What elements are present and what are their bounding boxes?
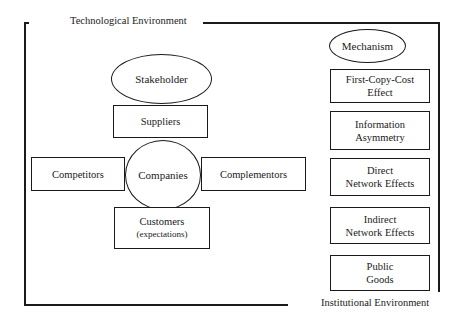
mechanism-item-label: Information Asymmetry <box>355 118 405 144</box>
customers-box: Customers (expectations) <box>114 207 210 249</box>
inst-env-right-border <box>438 22 440 292</box>
mechanism-title: Mechanism <box>342 40 393 52</box>
tech-env-top-tick <box>24 22 29 24</box>
inst-env-label: Institutional Environment <box>321 297 429 308</box>
tech-env-bottom-border <box>24 304 288 306</box>
stakeholder-title: Stakeholder <box>135 73 188 85</box>
suppliers-label: Suppliers <box>141 115 181 128</box>
inst-env-top-border <box>203 22 440 24</box>
mechanism-item-label: Direct Network Effects <box>346 164 415 190</box>
mechanism-ellipse: Mechanism <box>329 29 406 63</box>
mechanism-item-first-copy-cost: First-Copy-Cost Effect <box>330 69 430 103</box>
mechanism-item-indirect-network-effects: Indirect Network Effects <box>330 207 430 244</box>
customers-expectations-label: (expectations) <box>137 228 188 241</box>
customers-label: Customers <box>140 215 185 228</box>
tech-env-label: Technological Environment <box>68 15 189 26</box>
stakeholder-ellipse: Stakeholder <box>111 54 212 104</box>
complementors-label: Complementors <box>220 168 287 181</box>
complementors-box: Complementors <box>201 157 306 191</box>
competitors-label: Competitors <box>52 168 104 181</box>
mechanism-item-label: Indirect Network Effects <box>346 213 415 239</box>
mechanism-item-direct-network-effects: Direct Network Effects <box>330 158 430 196</box>
tech-env-left-border <box>24 22 26 306</box>
mechanism-item-label: Public Goods <box>366 260 393 286</box>
suppliers-box: Suppliers <box>113 105 208 138</box>
competitors-box: Competitors <box>31 157 125 191</box>
mechanism-item-label: First-Copy-Cost Effect <box>346 73 414 99</box>
companies-label: Companies <box>138 169 188 181</box>
mechanism-item-information-asymmetry: Information Asymmetry <box>330 111 430 150</box>
companies-circle: Companies <box>125 140 201 210</box>
mechanism-item-public-goods: Public Goods <box>330 255 430 291</box>
